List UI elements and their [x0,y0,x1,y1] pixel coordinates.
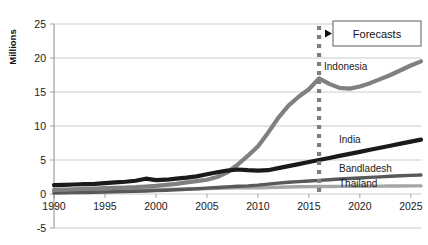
series-label-thailand: Thailand [339,178,377,189]
line-chart: -50510152025 199019952000200520102015202… [0,0,428,245]
y-axis-tick-label: 10 [34,120,46,132]
x-axis-tick-label: 2000 [144,200,168,212]
x-axis-tick-label: 2005 [195,200,219,212]
x-axis-tick-label: 2025 [399,200,423,212]
y-axis-title: Millions [7,29,18,64]
gridlines-group [54,24,421,228]
series-label-bandladesh: Bandladesh [339,163,392,174]
y-axis-tick-label: 15 [34,86,46,98]
series-label-indonesia: Indonesia [324,61,368,72]
x-axis-tick-label: 2020 [348,200,372,212]
x-axis-tick-label: 2010 [246,200,270,212]
y-axis-ticks-group [50,24,54,228]
x-axis-tick-label: 2015 [297,200,321,212]
series-label-india: India [339,134,361,145]
x-axis-tick-labels-group: 19901995200020052010201520202025 [42,200,422,212]
x-axis-ticks-group [54,194,411,198]
y-axis-tick-label: 20 [34,52,46,64]
chart-container: -50510152025 199019952000200520102015202… [0,0,428,245]
y-axis-tick-label: 5 [40,154,46,166]
x-axis-tick-label: 1990 [42,200,66,212]
forecast-label-text: Forecasts [353,28,402,40]
y-axis-tick-label: -5 [37,222,46,234]
y-axis-tick-label: 0 [40,188,46,200]
forecast-arrowhead-icon [325,30,332,38]
y-axis-tick-label: 25 [34,18,46,30]
x-axis-tick-label: 1995 [93,200,117,212]
